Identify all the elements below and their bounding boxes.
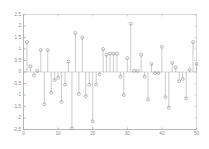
y-tick-label: 2 bbox=[18, 23, 21, 28]
y-tick-label: 1 bbox=[18, 46, 21, 51]
y-tick-label: 0.5 bbox=[15, 58, 22, 63]
x-tick-label: 0 bbox=[22, 131, 25, 136]
y-tick-label: 1.5 bbox=[15, 35, 22, 40]
y-tick-label: -2.5 bbox=[13, 127, 21, 132]
y-tick-label: -1.5 bbox=[13, 104, 21, 109]
y-tick-label: 0 bbox=[18, 69, 21, 74]
x-tick-label: 50 bbox=[194, 131, 200, 136]
x-tick-label: 20 bbox=[90, 131, 96, 136]
stem-series bbox=[24, 22, 199, 130]
y-tick-label: 2.5 bbox=[15, 12, 22, 17]
y-tick-label: -2 bbox=[17, 115, 22, 120]
stem-plot-figure: -2.5-2-1.5-1-0.500.511.522.501020304050 bbox=[0, 0, 209, 149]
x-tick-label: 10 bbox=[56, 131, 62, 136]
y-tick-label: -1 bbox=[17, 92, 22, 97]
x-tick-label: 30 bbox=[125, 131, 131, 136]
tick-labels-group: -2.5-2-1.5-1-0.500.511.522.501020304050 bbox=[13, 12, 199, 136]
x-tick-label: 40 bbox=[159, 131, 165, 136]
plot-canvas: -2.5-2-1.5-1-0.500.511.522.501020304050 bbox=[0, 0, 209, 149]
y-tick-label: -0.5 bbox=[13, 81, 21, 86]
